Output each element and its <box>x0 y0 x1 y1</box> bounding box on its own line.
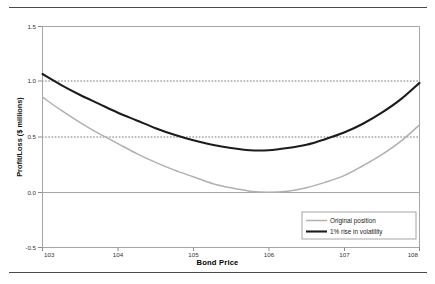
series-line-volatility-rise <box>43 74 420 151</box>
figure-container: 1.5 1.0 0.5 0.0 -0.5 103 104 105 106 107 <box>0 0 435 284</box>
x-tick-label-4: 107 <box>339 251 350 258</box>
y-tick-marks <box>38 27 42 248</box>
x-tick-label-5: 108 <box>408 251 419 258</box>
x-tick-label-3: 106 <box>264 251 275 258</box>
x-tick-label-1: 104 <box>113 251 124 258</box>
y-tick-label-1: 1.0 <box>27 77 36 84</box>
y-axis-title: Profit/Loss ($ millions) <box>15 97 24 177</box>
series-line-original-position <box>43 97 420 192</box>
legend-label-original-position: Original position <box>330 217 376 225</box>
x-tick-label-0: 103 <box>44 251 55 258</box>
y-tick-labels: 1.5 1.0 0.5 0.0 -0.5 <box>25 23 36 251</box>
top-horizontal-rule <box>9 7 427 8</box>
legend-label-volatility-rise: 1% rise in volatility <box>330 228 383 236</box>
series-group <box>43 74 420 192</box>
clipped-header-text <box>9 0 427 3</box>
legend[interactable]: Original position 1% rise in volatility <box>302 212 416 239</box>
y-tick-label-4: -0.5 <box>25 244 36 251</box>
gridlines-group <box>42 81 420 193</box>
x-tick-labels: 103 104 105 106 107 108 <box>44 251 419 258</box>
line-chart-svg: 1.5 1.0 0.5 0.0 -0.5 103 104 105 106 107 <box>0 14 435 264</box>
y-tick-label-0: 1.5 <box>27 23 36 30</box>
y-tick-label-3: 0.0 <box>27 189 36 196</box>
x-tick-label-2: 105 <box>188 251 199 258</box>
plot-area: 1.5 1.0 0.5 0.0 -0.5 103 104 105 106 107 <box>0 14 435 264</box>
bottom-horizontal-rule <box>9 272 427 273</box>
x-axis-title: Bond Price <box>0 258 435 267</box>
y-tick-label-2: 0.5 <box>27 133 36 140</box>
x-tick-marks <box>43 248 420 252</box>
